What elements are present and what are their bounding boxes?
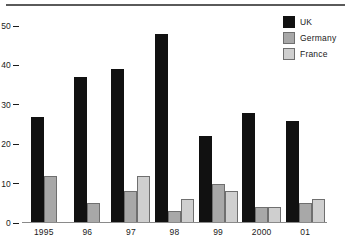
bar-uk (111, 69, 124, 223)
x-tick-label: 01 (283, 227, 327, 237)
top-divider (6, 4, 345, 6)
y-tick-label: 40 (1, 60, 22, 70)
bar-uk (74, 77, 87, 223)
legend-label: France (300, 49, 328, 59)
legend-label: Germany (300, 33, 336, 43)
x-tick-label: 2000 (240, 227, 284, 237)
legend-item-uk[interactable]: UK (283, 16, 336, 28)
bar-group (22, 18, 66, 223)
x-tick-label: 98 (153, 227, 197, 237)
bar-uk (286, 121, 299, 224)
bar-germany (87, 203, 100, 223)
y-tick-text: 10 (1, 179, 11, 189)
bar-group (66, 18, 110, 223)
y-tick-label: 50 (1, 21, 22, 31)
legend-item-germany[interactable]: Germany (283, 32, 336, 44)
bar-uk (199, 136, 212, 223)
y-tick-text: 50 (1, 21, 11, 31)
chart-legend: UKGermanyFrance (283, 16, 336, 60)
bar-uk (242, 113, 255, 223)
y-tick-label: 30 (1, 100, 22, 110)
bar-groups (22, 18, 327, 223)
y-tick-text: 30 (1, 100, 11, 110)
y-tick-mark (13, 223, 19, 224)
legend-swatch-icon (283, 48, 295, 60)
legend-label: UK (300, 17, 312, 27)
bar-france (181, 199, 194, 223)
bar-france (137, 176, 150, 223)
bar-group (153, 18, 197, 223)
bar-uk (31, 117, 44, 223)
y-tick-mark (13, 65, 19, 66)
bar-germany (124, 191, 137, 223)
y-tick-mark (13, 183, 19, 184)
y-tick-mark (13, 104, 19, 105)
x-axis-labels: 199596979899200001 (22, 227, 327, 237)
bar-germany (44, 176, 57, 223)
bar-france (312, 199, 325, 223)
legend-item-france[interactable]: France (283, 48, 336, 60)
x-tick-label: 97 (109, 227, 153, 237)
y-tick-text: 20 (1, 139, 11, 149)
bar-germany (299, 203, 312, 223)
bar-chart-figure: 01020304050 199596979899200001 UKGermany… (0, 0, 351, 249)
bar-uk (155, 34, 168, 223)
bar-germany (212, 184, 225, 223)
x-tick-label: 96 (66, 227, 110, 237)
x-tick-label: 99 (196, 227, 240, 237)
bar-group (109, 18, 153, 223)
y-tick-text: 40 (1, 60, 11, 70)
y-tick-label: 0 (6, 218, 22, 228)
y-tick-mark (13, 26, 19, 27)
legend-swatch-icon (283, 32, 295, 44)
legend-swatch-icon (283, 16, 295, 28)
bar-france (225, 191, 238, 223)
y-tick-text: 0 (6, 218, 11, 228)
y-tick-label: 20 (1, 139, 22, 149)
y-tick-mark (13, 144, 19, 145)
bar-group (240, 18, 284, 223)
y-tick-label: 10 (1, 179, 22, 189)
x-axis-line (22, 222, 327, 224)
x-tick-label: 1995 (22, 227, 66, 237)
plot-area: 01020304050 (22, 18, 327, 223)
bar-group (196, 18, 240, 223)
